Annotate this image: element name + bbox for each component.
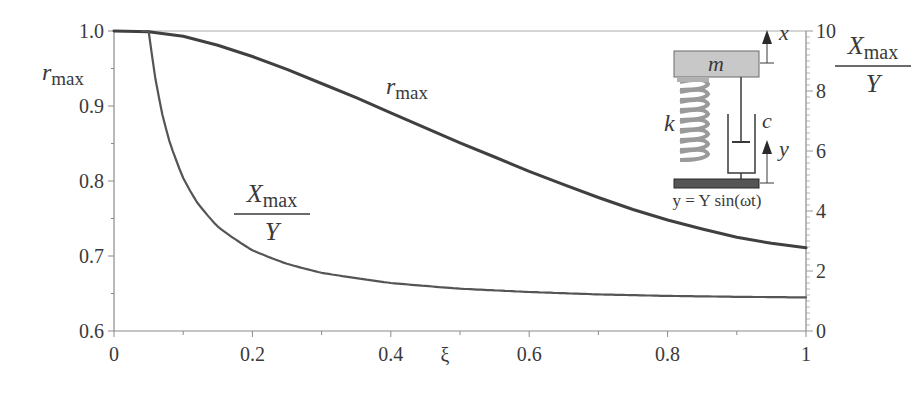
damper-label: c bbox=[762, 108, 772, 133]
left-y-tick-label: 0.7 bbox=[79, 245, 104, 267]
right-axis-label: XmaxY bbox=[835, 31, 911, 98]
base-excitation-equation: y = Y sin(ωt) bbox=[673, 191, 762, 210]
y-displacement-label: y bbox=[777, 136, 789, 161]
mass-label: m bbox=[708, 51, 724, 76]
right-axis-label-denominator: Y bbox=[866, 69, 883, 98]
r-max-curve-label: rmax bbox=[386, 73, 429, 103]
xmax-over-y-curve-label-numerator: Xmax bbox=[246, 179, 297, 211]
x-displacement-label: x bbox=[778, 20, 789, 45]
left-axis-label: rmax bbox=[42, 59, 85, 89]
y-arrow-head-icon bbox=[762, 140, 772, 154]
right-y-tick-label: 4 bbox=[816, 200, 826, 222]
x-tick-label: 0.2 bbox=[240, 343, 265, 365]
left-y-tick-label: 1.0 bbox=[79, 20, 104, 42]
x-tick-label: 0 bbox=[109, 343, 119, 365]
spring-label: k bbox=[664, 110, 675, 136]
x-tick-label: 1 bbox=[801, 343, 811, 365]
right-y-tick-label: 2 bbox=[816, 260, 826, 282]
xmax-over-y-curve-label: XmaxY bbox=[234, 179, 310, 246]
left-y-tick-label: 0.8 bbox=[79, 170, 104, 192]
x-arrow-head-icon bbox=[762, 30, 772, 44]
x-axis-label: ξ bbox=[441, 344, 450, 366]
left-y-tick-label: 0.6 bbox=[79, 320, 104, 342]
moving-base bbox=[674, 179, 759, 188]
left-y-tick-label: 0.9 bbox=[79, 95, 104, 117]
xmax-over-y-curve-label-denominator: Y bbox=[265, 217, 282, 246]
right-y-tick-label: 10 bbox=[816, 20, 836, 42]
right-y-tick-label: 6 bbox=[816, 140, 826, 162]
spring-coil bbox=[680, 80, 708, 160]
x-tick-label: 0.8 bbox=[655, 343, 680, 365]
chart: 00.20.40.60.81ξ0.60.70.80.91.00246810rma… bbox=[0, 0, 918, 395]
right-y-tick-label: 0 bbox=[816, 320, 826, 342]
right-y-tick-label: 8 bbox=[816, 80, 826, 102]
right-axis-label-numerator: Xmax bbox=[847, 31, 898, 63]
x-tick-label: 0.4 bbox=[378, 343, 403, 365]
x-tick-label: 0.6 bbox=[517, 343, 542, 365]
spring-top-cap bbox=[677, 78, 709, 82]
